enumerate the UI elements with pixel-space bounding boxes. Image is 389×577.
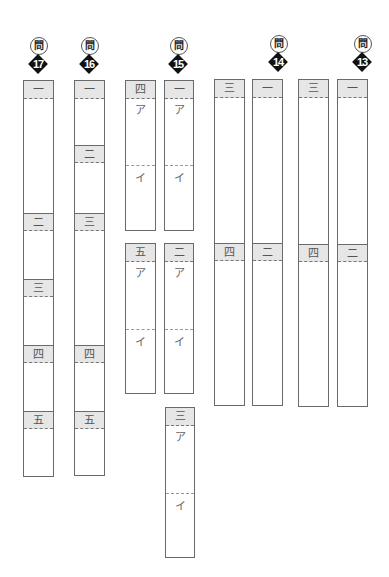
- part-label: ア: [126, 101, 155, 117]
- answer-box-q15-4[interactable]: 四 ア イ: [125, 80, 156, 231]
- question-17-label: 問 17: [23, 37, 53, 77]
- question-number: 16: [79, 54, 99, 74]
- section-header: 三: [75, 213, 104, 231]
- section-header: 五: [24, 411, 53, 429]
- section-header: 四: [215, 243, 244, 261]
- section-header: 四: [24, 345, 53, 363]
- section-header: 四: [299, 244, 328, 262]
- part-label: イ: [126, 169, 155, 185]
- section-header: 二: [165, 244, 193, 262]
- question-number: 13: [352, 52, 372, 72]
- section-header: 三: [24, 279, 53, 297]
- part-divider: [126, 329, 155, 330]
- section-header: 四: [75, 345, 104, 363]
- diamond-number-icon: 17: [28, 54, 48, 74]
- section-header: 二: [338, 244, 367, 262]
- mon-circle-icon: 問: [354, 35, 372, 53]
- diamond-number-icon: 16: [79, 54, 99, 74]
- question-13-label: 問 13: [347, 35, 377, 75]
- mon-circle-icon: 問: [170, 37, 188, 55]
- mon-circle-icon: 問: [81, 37, 99, 55]
- part-label: イ: [166, 497, 194, 513]
- part-label: イ: [126, 333, 155, 349]
- section-header: 一: [253, 80, 282, 98]
- question-14-label: 問 14: [263, 35, 293, 75]
- section-header: 四: [126, 81, 155, 99]
- section-header: 三: [299, 80, 328, 98]
- section-header: 一: [338, 80, 367, 98]
- question-16-label: 問 16: [74, 37, 104, 77]
- section-header: 二: [75, 145, 104, 163]
- question-number: 17: [28, 54, 48, 74]
- mon-circle-icon: 問: [270, 35, 288, 53]
- section-header: 三: [166, 408, 194, 426]
- diamond-number-icon: 14: [268, 52, 288, 72]
- question-15-label: 問 15: [163, 37, 193, 77]
- answer-box-q17[interactable]: 一 二 三 四 五: [23, 80, 54, 477]
- part-label: ア: [165, 264, 193, 280]
- answer-box-q13-1[interactable]: 一 二: [337, 79, 368, 407]
- answer-box-q14-1[interactable]: 一 二: [252, 79, 283, 406]
- section-header: 一: [24, 81, 53, 99]
- answer-box-q13-3[interactable]: 三 四: [298, 79, 329, 407]
- section-header: 二: [253, 243, 282, 261]
- part-divider: [165, 329, 193, 330]
- section-header: 一: [165, 81, 193, 99]
- part-divider: [126, 165, 155, 166]
- answer-box-q15-2[interactable]: 二 ア イ: [164, 243, 194, 394]
- part-divider: [165, 165, 193, 166]
- part-divider: [166, 493, 194, 494]
- part-label: ア: [165, 101, 193, 117]
- answer-box-q14-3[interactable]: 三 四: [214, 79, 245, 406]
- part-label: ア: [166, 428, 194, 444]
- section-header: 一: [75, 81, 104, 99]
- answer-box-q15-1[interactable]: 一 ア イ: [164, 80, 194, 231]
- answer-box-q16[interactable]: 一 二 三 四 五: [74, 80, 105, 476]
- mon-circle-icon: 問: [30, 37, 48, 55]
- part-label: イ: [165, 169, 193, 185]
- section-header: 五: [126, 244, 155, 262]
- section-header: 五: [75, 411, 104, 429]
- section-header: 二: [24, 213, 53, 231]
- part-label: イ: [165, 333, 193, 349]
- question-number: 14: [268, 52, 288, 72]
- part-label: ア: [126, 264, 155, 280]
- answer-box-q15-3[interactable]: 三 ア イ: [165, 407, 195, 558]
- question-number: 15: [168, 54, 188, 74]
- answer-box-q15-5[interactable]: 五 ア イ: [125, 243, 156, 394]
- section-header: 三: [215, 80, 244, 98]
- diamond-number-icon: 13: [352, 52, 372, 72]
- diamond-number-icon: 15: [168, 54, 188, 74]
